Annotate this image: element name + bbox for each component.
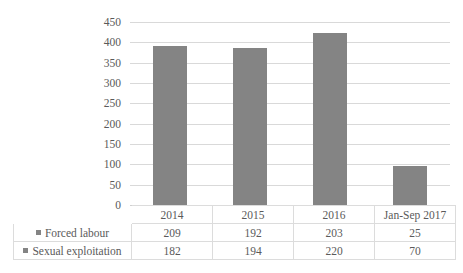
bar-stack	[153, 46, 187, 205]
bar-segment-forced-labour[interactable]	[313, 33, 347, 116]
bar-segment-sexual-exploitation[interactable]	[153, 131, 187, 205]
table-header-2014: 2014	[132, 206, 213, 224]
y-tick-150: 150	[79, 139, 121, 151]
bar-segment-sexual-exploitation[interactable]	[393, 177, 427, 205]
y-tick-200: 200	[79, 119, 121, 131]
table-row: Sexual exploitation 182 194 220 70	[14, 242, 456, 260]
legend-label-forced-labour: Forced labour	[45, 227, 109, 239]
legend-swatch-icon	[36, 230, 41, 235]
bar-column-jan-sep-2017[interactable]	[370, 22, 450, 205]
y-tick-300: 300	[79, 78, 121, 90]
bar-column-2016[interactable]	[290, 22, 370, 205]
cell-sexual-exploitation-2015: 194	[213, 242, 294, 260]
bars-layer	[130, 22, 450, 205]
table-row: Forced labour 209 192 203 25	[14, 224, 456, 242]
bar-segment-forced-labour[interactable]	[153, 46, 187, 131]
table-header-jan-sep-2017: Jan-Sep 2017	[375, 206, 456, 224]
bar-column-2015[interactable]	[210, 22, 290, 205]
bar-stack	[313, 33, 347, 205]
bar-segment-sexual-exploitation[interactable]	[233, 126, 267, 205]
y-tick-350: 350	[79, 58, 121, 70]
y-tick-450: 450	[79, 17, 121, 29]
bar-stack	[233, 48, 267, 205]
bar-segment-forced-labour[interactable]	[393, 166, 427, 176]
bar-segment-forced-labour[interactable]	[233, 48, 267, 126]
data-table: 2014 2015 2016 Jan-Sep 2017 Forced labou…	[13, 205, 456, 260]
legend-swatch-icon	[23, 248, 28, 253]
cell-sexual-exploitation-2016: 220	[294, 242, 375, 260]
cell-forced-labour-jan-sep-2017: 25	[375, 224, 456, 242]
cell-sexual-exploitation-jan-sep-2017: 70	[375, 242, 456, 260]
legend-item-forced-labour[interactable]: Forced labour	[14, 224, 132, 242]
cell-forced-labour-2014: 209	[132, 224, 213, 242]
bar-column-2014[interactable]	[130, 22, 210, 205]
table-header-row: 2014 2015 2016 Jan-Sep 2017	[14, 206, 456, 224]
cell-forced-labour-2016: 203	[294, 224, 375, 242]
legend-item-sexual-exploitation[interactable]: Sexual exploitation	[14, 242, 132, 260]
y-tick-400: 400	[79, 37, 121, 49]
cell-forced-labour-2015: 192	[213, 224, 294, 242]
table-header-2015: 2015	[213, 206, 294, 224]
cell-sexual-exploitation-2014: 182	[132, 242, 213, 260]
stacked-column-chart-with-data-table: 450 400 350 300 250 200 150 100 50 0	[0, 0, 463, 273]
y-tick-50: 50	[79, 180, 121, 192]
table-header-2016: 2016	[294, 206, 375, 224]
legend-label-sexual-exploitation: Sexual exploitation	[32, 245, 121, 257]
bar-segment-sexual-exploitation[interactable]	[313, 116, 347, 205]
y-tick-100: 100	[79, 159, 121, 171]
y-tick-250: 250	[79, 98, 121, 110]
bar-stack	[393, 166, 427, 205]
table-corner-cell	[14, 206, 132, 224]
